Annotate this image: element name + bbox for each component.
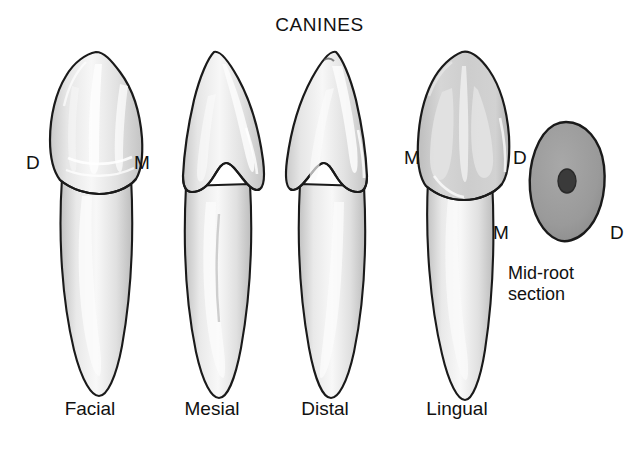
tooth-illustrations: [0, 0, 639, 456]
lingual-mesial-letter: M: [404, 147, 420, 169]
section-distal-letter: D: [610, 222, 624, 244]
section-caption-line-2: section: [508, 284, 633, 305]
view-label-distal: Distal: [265, 398, 385, 420]
facial-mesial-letter: M: [134, 152, 150, 174]
tooth-view-mesial: [183, 52, 264, 398]
facial-distal-letter: D: [26, 152, 40, 174]
lingual-distal-letter: D: [513, 147, 527, 169]
section-caption-line-1: Mid-root: [508, 263, 633, 284]
view-label-mesial: Mesial: [152, 398, 272, 420]
mid-root-canal: [558, 169, 576, 193]
mid-root-section-caption: Mid-root section: [508, 263, 633, 305]
tooth-view-distal: [286, 52, 367, 398]
view-label-facial: Facial: [30, 398, 150, 420]
section-mesial-letter: M: [493, 222, 509, 244]
canines-figure: CANINES: [0, 0, 639, 456]
mid-root-section-diagram: [530, 122, 605, 241]
tooth-view-facial: [50, 52, 142, 396]
view-label-lingual: Lingual: [392, 398, 522, 420]
